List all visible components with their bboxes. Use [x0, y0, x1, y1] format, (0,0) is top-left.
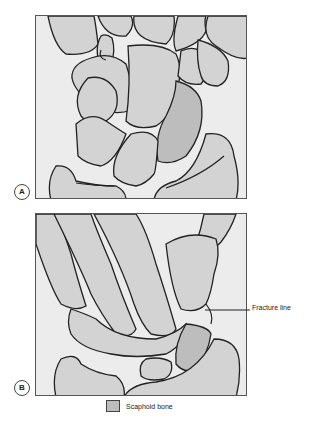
- fracture-line-label: Fracture line: [252, 304, 291, 311]
- fracture-line-leader: [0, 0, 309, 424]
- scaphoid-swatch: [106, 400, 120, 412]
- legend: Scaphoid bone: [106, 400, 173, 412]
- legend-label: Scaphoid bone: [126, 403, 173, 410]
